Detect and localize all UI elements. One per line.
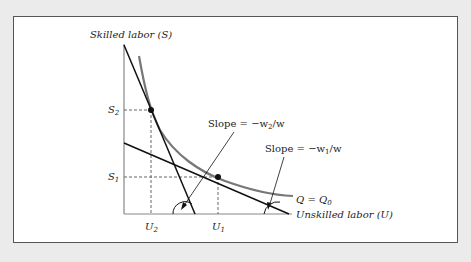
arrowhead-steep <box>181 202 187 210</box>
pointer-flat <box>269 157 284 207</box>
pointer-steep <box>183 132 234 207</box>
tangency-point-1 <box>215 174 221 180</box>
slope-flat-label: Slope = −w1/w <box>265 143 342 156</box>
tangency-point-2 <box>148 107 154 113</box>
s2-label: S2 <box>108 104 120 117</box>
u2-label: U2 <box>145 221 158 234</box>
u1-label: U1 <box>212 221 225 234</box>
slope-steep-label: Slope = −w2/w <box>208 118 285 131</box>
x-axis-label: Unskilled labor (U) <box>296 209 393 220</box>
isoquant-label: Q = Q0 <box>296 194 332 207</box>
s1-label: S1 <box>108 171 119 184</box>
isoquant-diagram: Skilled labor (S) Unskilled labor (U) Q … <box>0 0 471 262</box>
isocost-steep <box>124 45 195 214</box>
y-axis-label: Skilled labor (S) <box>90 29 172 40</box>
